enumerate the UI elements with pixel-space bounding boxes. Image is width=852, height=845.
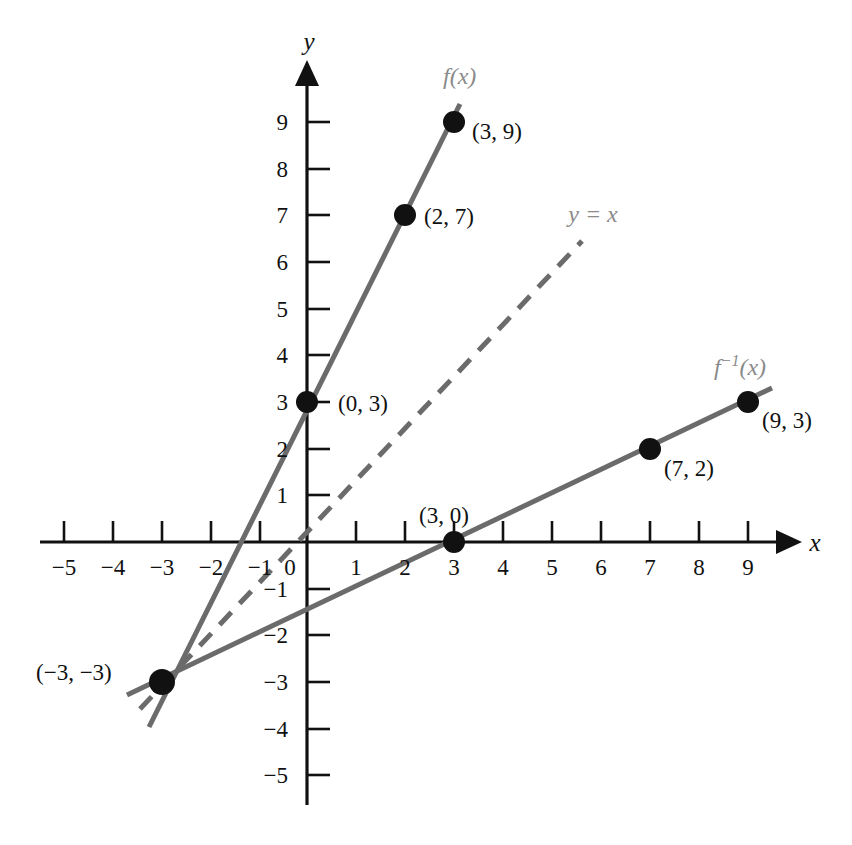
point-label-0-3: (0, 3) [338, 391, 388, 416]
coordinate-plane: −5 −4 −3 −2 −1 0 1 2 3 4 5 6 7 8 9 9 8 7… [0, 0, 852, 845]
x-axis-arrowhead [776, 530, 802, 554]
x-tick-label--4: −4 [101, 555, 126, 580]
x-tick-label-4: 4 [497, 555, 509, 580]
curve-label-identity: y = x [566, 201, 618, 227]
point-label-7-2: (7, 2) [664, 456, 714, 481]
y-tick-labels: 9 8 7 6 5 4 3 2 1 −1 −2 −3 −4 −5 [264, 110, 289, 788]
x-tick-labels: −5 −4 −3 −2 −1 0 1 2 3 4 5 6 7 8 9 [52, 555, 754, 580]
y-tick-label-6: 6 [277, 250, 289, 275]
x-tick-label-8: 8 [693, 555, 705, 580]
y-axis-arrowhead [295, 60, 319, 86]
point-2-7 [394, 204, 416, 226]
point-label-3-9: (3, 9) [472, 119, 522, 144]
y-tick-label-3: 3 [277, 390, 289, 415]
x-tick-label-7: 7 [644, 555, 656, 580]
y-tick-label-1: 1 [277, 483, 289, 508]
x-tick-label-3: 3 [448, 555, 460, 580]
point-label-3-0: (3, 0) [419, 503, 469, 528]
y-tick-label--3: −3 [264, 670, 288, 695]
y-tick-label--5: −5 [264, 763, 288, 788]
point-3-9 [443, 111, 465, 133]
point-0-3 [296, 391, 318, 413]
x-tick-label-6: 6 [595, 555, 607, 580]
y-tick-label--4: −4 [264, 717, 289, 742]
point-9-3 [737, 391, 759, 413]
x-tick-label--3: −3 [150, 555, 174, 580]
marked-points [149, 111, 759, 695]
point-label-2-7: (2, 7) [424, 204, 474, 229]
x-tick-label-9: 9 [742, 555, 754, 580]
x-axis-name: x [808, 529, 820, 556]
y-tick-label-5: 5 [277, 297, 289, 322]
identity-line-y-equals-x [140, 241, 582, 709]
point-3-0 [443, 531, 465, 553]
y-tick-label-2: 2 [277, 437, 289, 462]
y-tick-label-9: 9 [277, 110, 289, 135]
curve-label-f-inverse-tail: (x) [739, 354, 766, 380]
point-label-neg3-neg3: (−3, −3) [36, 660, 112, 685]
point-neg3-neg3 [149, 669, 175, 695]
curve-label-f: f(x) [443, 63, 476, 89]
x-tick-marks [64, 521, 748, 542]
y-tick-label-7: 7 [277, 203, 289, 228]
y-tick-label--2: −2 [264, 623, 288, 648]
point-label-9-3: (9, 3) [762, 408, 812, 433]
y-tick-label--1: −1 [264, 577, 288, 602]
point-labels: (3, 9) (2, 7) (0, 3) (9, 3) (7, 2) (3, 0… [36, 119, 812, 685]
point-7-2 [639, 438, 661, 460]
y-tick-marks [307, 122, 330, 775]
x-tick-label-1: 1 [350, 555, 362, 580]
y-tick-label-8: 8 [277, 157, 289, 182]
curve-label-f-inverse-exponent: −1 [721, 352, 740, 369]
x-tick-label-5: 5 [546, 555, 558, 580]
x-tick-label-2: 2 [399, 555, 411, 580]
x-tick-label--5: −5 [52, 555, 76, 580]
function-line-f [149, 104, 460, 727]
y-axis-name: y [300, 28, 315, 55]
axis-group [40, 60, 802, 805]
y-tick-label-4: 4 [277, 343, 289, 368]
curve-label-f-inverse: f−1(x) [714, 352, 766, 380]
x-tick-label--2: −2 [199, 555, 223, 580]
graph-figure: −5 −4 −3 −2 −1 0 1 2 3 4 5 6 7 8 9 9 8 7… [0, 0, 852, 845]
